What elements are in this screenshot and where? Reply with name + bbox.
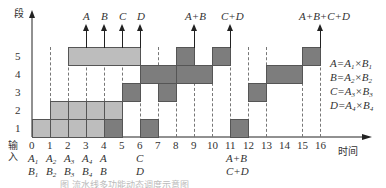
stage-label: 2 [15, 105, 21, 116]
x-tick-label: 16 [315, 140, 326, 151]
stage-label: 1 [15, 123, 21, 134]
stage-5-block [212, 47, 231, 66]
x-tick-label: 4 [101, 140, 107, 151]
stage-2-block [86, 101, 105, 120]
stage-label: 5 [15, 51, 21, 62]
output-label: B [101, 11, 108, 22]
stage-4-block [266, 65, 303, 84]
arrowhead-icon [227, 24, 233, 31]
output-label: A [83, 11, 90, 22]
stage-3-block [122, 83, 141, 102]
stage-1-block [32, 119, 51, 138]
arrowhead-icon [137, 24, 143, 31]
x-tick-label: 2 [65, 140, 71, 151]
x-axis-label: 时间 [338, 146, 358, 157]
stage-1-block [68, 119, 87, 138]
x-tick-label: 3 [83, 140, 89, 151]
x-tick-label: 6 [137, 140, 143, 151]
legend-entry: D=A4×B4 [330, 100, 373, 115]
x-tick-label: 0 [29, 140, 35, 151]
input-operand-a: C [136, 153, 143, 164]
y-axis-label: 段 [14, 8, 24, 19]
input-operand-b: D [136, 166, 144, 177]
stage-1-block [140, 119, 159, 138]
x-tick-label: 10 [207, 140, 218, 151]
stage-2-block [50, 101, 69, 120]
arrowhead-icon [83, 24, 89, 31]
x-tick-label: 9 [191, 140, 197, 151]
input-operand-b: B [100, 166, 107, 177]
stage-5-block [68, 47, 141, 66]
pipeline-timing-diagram: 段 时间 12345012345678910111213141516ABCDA+… [0, 0, 386, 188]
stage-5-block [176, 47, 195, 66]
stage-4-block [176, 65, 213, 84]
stage-2-block [104, 101, 123, 120]
stage-label: 3 [15, 87, 21, 98]
arrowhead-icon [119, 24, 125, 31]
x-tick-label: 7 [155, 140, 161, 151]
stage-3-block [158, 83, 177, 102]
output-label: A+B+C+D [299, 11, 350, 22]
input-label: 输 入 [8, 140, 18, 162]
input-operand-a: A+B [226, 153, 247, 164]
x-tick-label: 11 [225, 140, 236, 151]
figure-caption: 图 流水线多功能动态调度示意图 [60, 178, 189, 188]
stage-1-block [104, 119, 123, 138]
x-tick-label: 8 [173, 140, 179, 151]
stage-4-block [140, 65, 177, 84]
output-label: A+B [185, 11, 206, 22]
x-tick-label: 1 [47, 140, 53, 151]
x-tick-label: 15 [297, 140, 308, 151]
input-operand-a: A [100, 153, 107, 164]
stage-label: 4 [15, 69, 21, 80]
x-tick-label: 5 [119, 140, 125, 151]
x-tick-label: 12 [243, 140, 254, 151]
input-operand-b: C+D [226, 166, 249, 177]
stage-1-block [86, 119, 105, 138]
arrowhead-icon [101, 24, 107, 31]
output-label: D [137, 11, 145, 22]
stage-5-block [302, 47, 321, 66]
output-label: C+D [221, 11, 244, 22]
arrowhead-icon [317, 24, 323, 31]
arrowhead-icon [191, 24, 197, 31]
stage-1-block [50, 119, 69, 138]
x-tick-label: 14 [279, 140, 290, 151]
output-label: C [119, 11, 126, 22]
input-operand-b: B2 [46, 166, 56, 181]
input-operand-b: B1 [28, 166, 38, 181]
x-tick-label: 13 [261, 140, 272, 151]
stage-2-block [68, 101, 87, 120]
stage-1-block [230, 119, 249, 138]
stage-3-block [248, 83, 267, 102]
